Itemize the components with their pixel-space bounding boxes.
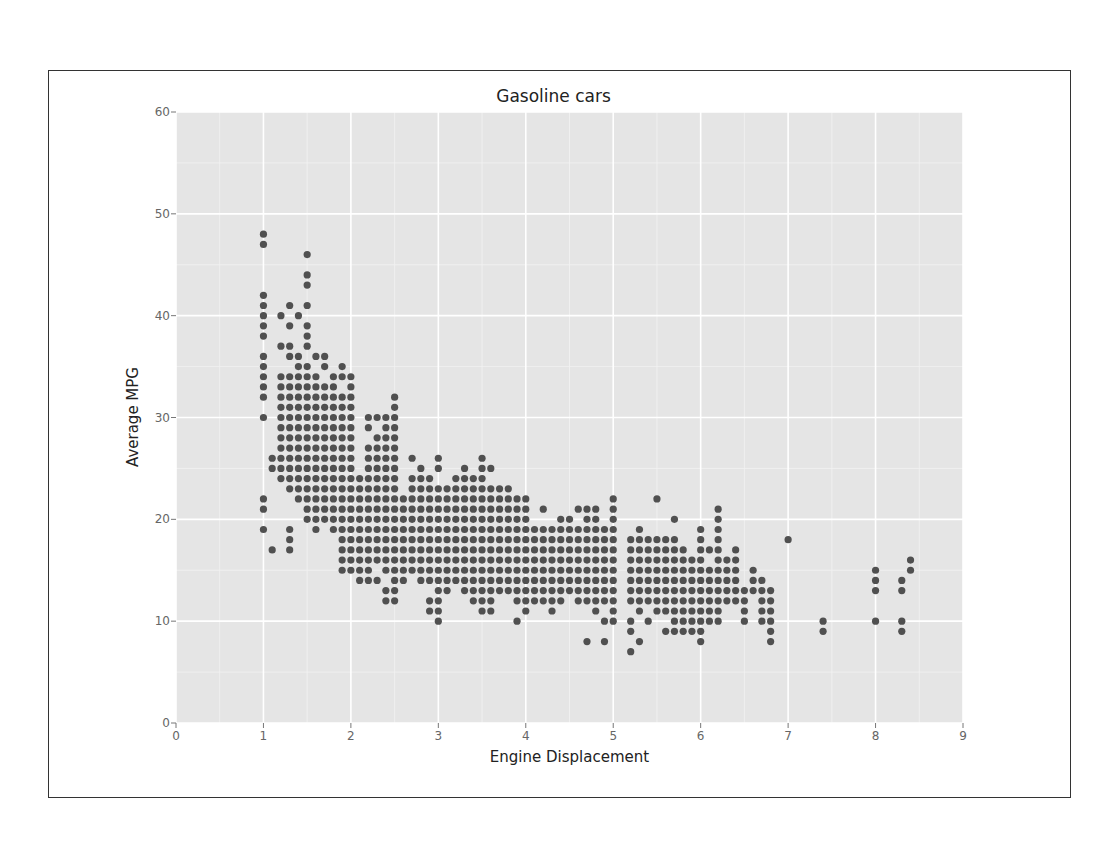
data-point xyxy=(732,546,739,553)
data-point xyxy=(513,536,520,543)
data-point xyxy=(487,567,494,574)
data-point xyxy=(295,485,302,492)
data-point xyxy=(540,587,547,594)
data-point xyxy=(400,556,407,563)
data-point xyxy=(295,363,302,370)
data-point xyxy=(417,495,424,502)
data-point xyxy=(461,495,468,502)
data-point xyxy=(260,506,267,513)
data-point xyxy=(435,577,442,584)
data-point xyxy=(312,424,319,431)
data-point xyxy=(295,353,302,360)
x-tick-label: 2 xyxy=(347,729,355,743)
data-point xyxy=(557,597,564,604)
data-point xyxy=(548,597,555,604)
data-point xyxy=(277,414,284,421)
data-point xyxy=(723,577,730,584)
data-point xyxy=(592,546,599,553)
data-point xyxy=(435,526,442,533)
data-point xyxy=(312,475,319,482)
data-point xyxy=(767,628,774,635)
data-point xyxy=(409,506,416,513)
data-point xyxy=(592,516,599,523)
data-point xyxy=(601,618,608,625)
data-point xyxy=(566,526,573,533)
data-point xyxy=(496,516,503,523)
data-point xyxy=(872,567,879,574)
data-point xyxy=(697,567,704,574)
data-point xyxy=(513,567,520,574)
data-point xyxy=(417,577,424,584)
data-point xyxy=(592,597,599,604)
data-point xyxy=(286,322,293,329)
data-point xyxy=(391,465,398,472)
data-point xyxy=(277,455,284,462)
data-point xyxy=(715,536,722,543)
data-point xyxy=(662,587,669,594)
data-point xyxy=(286,404,293,411)
data-point xyxy=(767,597,774,604)
data-point xyxy=(601,556,608,563)
data-point xyxy=(286,414,293,421)
data-point xyxy=(374,475,381,482)
data-point xyxy=(898,618,905,625)
data-point xyxy=(286,536,293,543)
data-point xyxy=(452,485,459,492)
data-point xyxy=(452,536,459,543)
data-point xyxy=(522,516,529,523)
data-point xyxy=(277,373,284,380)
data-point xyxy=(391,567,398,574)
data-point xyxy=(304,414,311,421)
data-point xyxy=(723,556,730,563)
data-point xyxy=(347,424,354,431)
data-point xyxy=(347,414,354,421)
data-point xyxy=(496,567,503,574)
data-point xyxy=(706,577,713,584)
data-point xyxy=(566,577,573,584)
data-point xyxy=(330,373,337,380)
data-point xyxy=(277,465,284,472)
data-point xyxy=(505,495,512,502)
data-point xyxy=(374,455,381,462)
data-point xyxy=(610,536,617,543)
data-point xyxy=(382,556,389,563)
data-point xyxy=(347,485,354,492)
data-point xyxy=(435,597,442,604)
data-point xyxy=(365,556,372,563)
data-point xyxy=(636,587,643,594)
data-point xyxy=(522,506,529,513)
data-point xyxy=(417,556,424,563)
data-point xyxy=(304,516,311,523)
data-point xyxy=(601,577,608,584)
data-point xyxy=(540,577,547,584)
data-point xyxy=(610,577,617,584)
data-point xyxy=(260,495,267,502)
data-point xyxy=(907,567,914,574)
data-point xyxy=(671,536,678,543)
data-point xyxy=(452,556,459,563)
data-point xyxy=(260,363,267,370)
data-point xyxy=(426,567,433,574)
data-point xyxy=(339,475,346,482)
data-point xyxy=(513,546,520,553)
data-point xyxy=(513,556,520,563)
data-point xyxy=(575,526,582,533)
data-point xyxy=(277,434,284,441)
data-point xyxy=(426,556,433,563)
data-point xyxy=(330,465,337,472)
data-point xyxy=(321,485,328,492)
data-point xyxy=(417,546,424,553)
data-point xyxy=(487,465,494,472)
data-point xyxy=(400,577,407,584)
data-point xyxy=(452,506,459,513)
data-point xyxy=(732,556,739,563)
data-point xyxy=(750,567,757,574)
data-point xyxy=(452,516,459,523)
data-point xyxy=(321,495,328,502)
data-point xyxy=(566,536,573,543)
data-point xyxy=(461,506,468,513)
data-point xyxy=(435,556,442,563)
data-point xyxy=(374,506,381,513)
data-point xyxy=(312,444,319,451)
data-point xyxy=(417,567,424,574)
